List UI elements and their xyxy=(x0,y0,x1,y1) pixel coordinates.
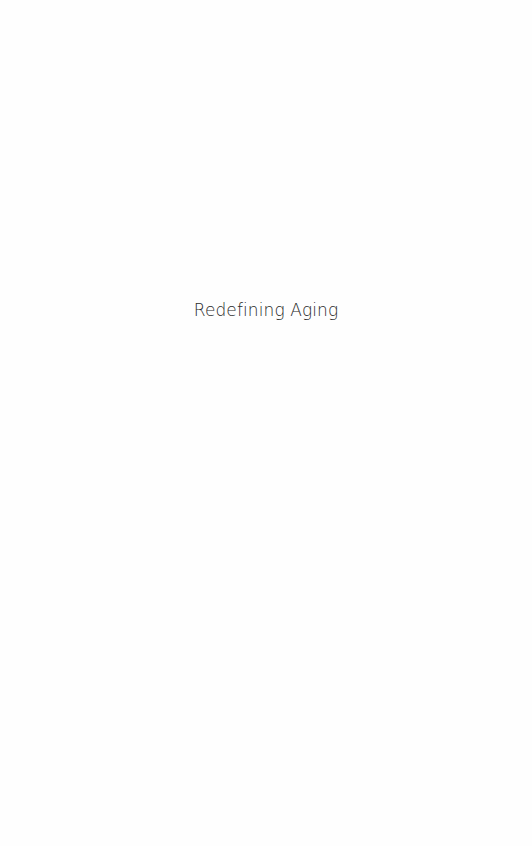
half-title-page: Redefining Aging xyxy=(0,0,532,846)
book-title: Redefining Aging xyxy=(0,298,532,322)
